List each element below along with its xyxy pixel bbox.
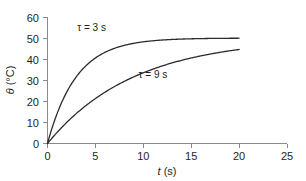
x-axis-ticks: [48, 144, 288, 149]
y-tick-label-0: 0: [33, 138, 39, 150]
y-tick-label-10: 10: [27, 117, 39, 129]
annotation-tau-9: τ = 9 s: [139, 69, 168, 80]
x-tick-label-0: 0: [44, 150, 50, 162]
x-tick-label-10: 10: [137, 150, 149, 162]
y-axis-tick-labels: 60 50 40 30 20 10 0: [27, 12, 39, 150]
annotation-tau-3: τ = 3 s: [77, 22, 106, 33]
line-chart: 60 50 40 30 20 10 0 0 5 10 15 20 25: [0, 0, 306, 181]
x-tick-label-25: 25: [281, 150, 293, 162]
y-axis-title: θ (°C): [4, 66, 16, 95]
x-axis-title: t (s): [158, 165, 177, 177]
x-axis-tick-labels: 0 5 10 15 20 25: [44, 150, 293, 162]
data-curves: [48, 38, 240, 143]
curve-tau-9: [48, 50, 240, 144]
y-tick-label-50: 50: [27, 33, 39, 45]
x-tick-label-5: 5: [92, 150, 98, 162]
x-axis-title-unit: (s): [161, 165, 177, 177]
y-tick-label-30: 30: [27, 75, 39, 87]
y-tick-label-60: 60: [27, 12, 39, 24]
chart-axes: [48, 17, 288, 144]
y-tick-label-20: 20: [27, 96, 39, 108]
y-tick-label-40: 40: [27, 54, 39, 66]
x-tick-label-15: 15: [185, 150, 197, 162]
figure-caption: [0, 177, 306, 181]
curve-annotations: τ = 3 s τ = 9 s: [77, 22, 167, 80]
figure-container: 60 50 40 30 20 10 0 0 5 10 15 20 25: [0, 0, 306, 181]
x-tick-label-20: 20: [233, 150, 245, 162]
y-axis-title-unit: (°C): [4, 66, 16, 89]
y-axis-ticks: [43, 18, 48, 144]
